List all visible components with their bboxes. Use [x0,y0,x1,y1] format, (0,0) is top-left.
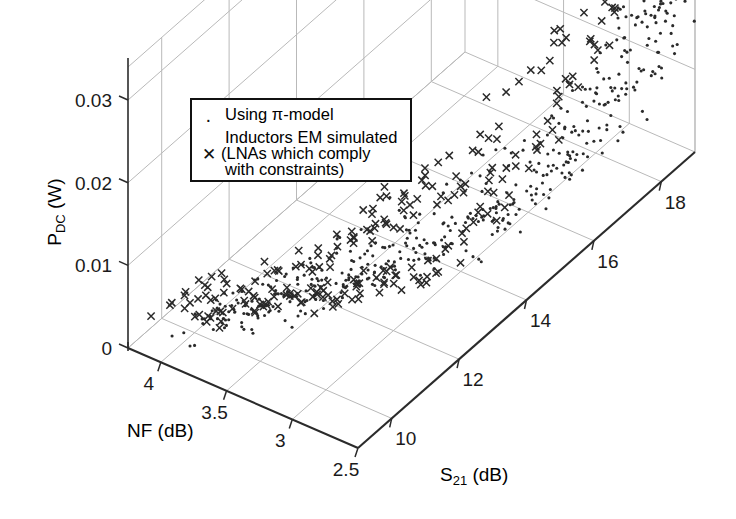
legend-label-em-line3: with constraints) [225,160,344,179]
data-point-dot [581,169,584,172]
data-point-dot [585,142,588,145]
data-point-dot [604,43,607,46]
data-point-dot [447,225,450,228]
data-point-dot [418,213,421,216]
data-point-dot [653,16,656,19]
data-point-cross [483,93,490,100]
data-point-dot [534,192,537,195]
data-point-dot [595,92,598,95]
data-point-dot [212,328,215,331]
data-point-dot [570,131,573,134]
data-point-dot [495,211,498,214]
data-point-dot [387,259,390,262]
data-point-cross [549,126,556,133]
legend-cross-icon: ✕ [202,144,216,165]
data-point-dot [479,174,482,177]
data-point-dot [693,20,696,23]
data-point-dot [657,65,660,68]
data-point-cross [398,286,405,293]
data-point-dot [572,125,575,128]
data-point-cross [360,267,367,274]
y-tick-label: 16 [597,251,618,272]
data-point-cross [369,205,376,212]
data-point-dot [366,249,369,252]
data-point-dot [615,38,618,41]
data-point-dot [650,74,653,77]
data-point-dot [630,14,633,17]
data-point-dot [643,9,646,12]
data-point-dot [405,228,408,231]
data-point-dot [349,250,352,253]
data-point-cross [437,193,444,200]
data-point-dot [414,229,417,232]
data-point-dot [595,67,598,70]
data-point-dot [394,268,397,271]
data-point-dot [464,221,467,224]
data-point-dot [613,87,616,90]
data-point-dot [671,44,674,47]
data-point-cross [557,25,564,32]
data-point-dot [558,152,561,155]
data-point-cross [377,194,384,201]
data-point-dot [263,314,266,317]
data-point-dot [284,319,287,322]
data-point-dot [620,87,623,90]
data-point-dot [290,326,293,329]
data-point-dot [392,243,395,246]
data-point-cross [324,279,331,286]
data-point-cross [390,224,397,231]
data-point-dot [247,313,250,316]
data-point-dot [534,202,537,205]
data-point-dot [350,268,353,271]
data-point-dot [403,215,406,218]
data-point-dot [450,216,453,219]
y-axis-title-main: S [440,464,453,485]
data-point-dot [574,129,577,132]
z-tick-label: 0.03 [75,90,112,111]
data-point-dot [605,123,608,126]
data-point-cross [373,274,380,281]
legend-box: · Using π-model ✕ Inductors EM simulated… [190,98,412,182]
data-point-dot [581,85,584,88]
x-tick [355,448,358,457]
data-point-dot [609,114,612,117]
data-point-cross [501,204,508,211]
data-point-dot [296,314,299,317]
data-point-dot [320,279,323,282]
data-point-dot [633,88,636,91]
data-point-dot [552,148,555,151]
data-point-cross [396,225,403,232]
data-point-cross [569,73,576,80]
data-point-cross [575,84,582,91]
data-point-dot [642,0,645,2]
data-point-dot [530,193,533,196]
data-point-dot [616,139,619,142]
data-point-dot [569,157,572,160]
data-point-cross [484,210,491,217]
data-point-dot [496,230,499,233]
data-point-dot [261,283,264,286]
data-point-cross [350,234,357,241]
data-point-dot [544,207,547,210]
data-point-dot [182,331,185,334]
data-point-dot [571,89,574,92]
data-point-cross [201,281,208,288]
data-point-dot [335,282,338,285]
data-point-cross [546,57,553,64]
data-point-cross [591,56,598,63]
data-point-cross [493,135,500,142]
data-point-dot [303,274,306,277]
data-point-cross [503,164,510,171]
data-point-dot [617,27,620,30]
data-point-dot [299,309,302,312]
data-point-cross [433,201,440,208]
data-point-dot [237,301,240,304]
data-point-cross [551,27,558,34]
data-point-dot [315,277,318,280]
z-axis-title-unit: (W) [44,178,65,214]
z-tick [119,96,128,100]
data-point-dot [546,152,549,155]
data-point-dot [601,151,604,154]
data-point-cross [477,203,484,210]
data-point-dot [670,32,673,35]
